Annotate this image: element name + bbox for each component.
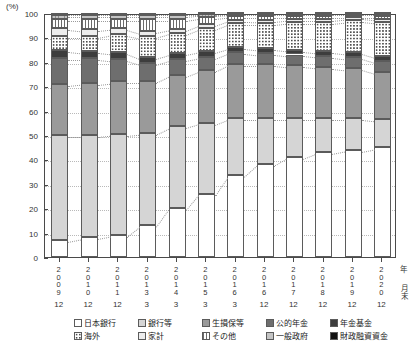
bar-2011-12[interactable] (110, 15, 127, 257)
bar-segment-fil (169, 13, 186, 15)
gridline (45, 161, 395, 162)
bar-2015-3[interactable] (198, 15, 215, 257)
bar-segment-gov (139, 15, 156, 19)
segment-connector-line (156, 17, 168, 18)
bar-segment-pf (110, 52, 127, 59)
bar-segment-fil (139, 13, 156, 15)
legend-item-bank[interactable]: 銀行等 (138, 316, 202, 329)
legend-item-oth[interactable]: その他 (202, 329, 266, 342)
segment-connector-line (156, 210, 169, 228)
segment-connector-line (361, 54, 374, 59)
segment-connector-line (186, 53, 199, 56)
bar-segment-hh (374, 19, 391, 22)
x-axis-tick-mark (176, 258, 177, 262)
chart-container: (%) 日本銀行銀行等生損保等公的年金年金基金海外家計その他一般政府財政融資資金… (0, 0, 414, 345)
bar-segment-bank (169, 126, 186, 208)
segment-connector-line (244, 120, 256, 121)
legend-item-pub[interactable]: 公的年金 (266, 316, 330, 329)
legend-item-ovs[interactable]: 海外 (74, 329, 138, 342)
x-axis-month-label: 3 (225, 300, 244, 309)
x-axis-year-label: 2011 (109, 266, 126, 296)
bar-segment-pf (315, 51, 332, 56)
gridline (45, 235, 395, 236)
plot-area (44, 14, 396, 258)
segment-connector-line (156, 21, 168, 22)
bar-2018-12[interactable] (315, 15, 332, 257)
bar-segment-boj (110, 235, 127, 257)
bar-2014-3[interactable] (169, 15, 186, 257)
segment-connector-line (98, 83, 110, 85)
bar-2016-3[interactable] (227, 15, 244, 257)
legend-swatch-oth (202, 332, 210, 340)
x-axis-month-label: 12 (372, 300, 391, 309)
x-axis-year-label: 2009 (50, 266, 67, 296)
bar-2010-12[interactable] (81, 15, 98, 257)
x-axis-year-label: 2010 (80, 266, 97, 296)
bar-segment-hh (345, 17, 362, 20)
y-axis-tick-label: 100 (14, 10, 38, 19)
bar-segment-bank (110, 134, 127, 235)
bar-2016-12[interactable] (257, 15, 274, 257)
segment-connector-line (68, 239, 81, 242)
segment-connector-line (303, 67, 315, 69)
segment-connector-line (127, 83, 139, 84)
bar-segment-hh (198, 24, 215, 28)
y-axis-tick-label: 10 (14, 230, 38, 239)
y-axis-tick-mark (44, 258, 48, 259)
bar-segment-ovs (227, 23, 244, 47)
x-axis-month-label: 3 (196, 300, 215, 309)
bar-2020-12[interactable] (374, 15, 391, 257)
bar-segment-bank (51, 135, 68, 240)
bar-segment-pub (110, 59, 127, 81)
segment-connector-line (273, 50, 285, 52)
bar-segment-oth (198, 17, 215, 24)
bar-segment-hh (51, 28, 68, 37)
bar-2017-12[interactable] (286, 15, 303, 257)
segment-connector-line (98, 30, 110, 32)
segment-connector-line (68, 52, 80, 54)
legend-swatch-pub (266, 319, 274, 327)
legend-label-ovs: 海外 (84, 330, 100, 341)
legend-item-fil[interactable]: 財政融資資金 (330, 329, 394, 342)
bar-segment-ovs (81, 36, 98, 51)
x-axis-tick-mark (117, 258, 118, 262)
bar-segment-bank (286, 118, 303, 157)
segment-connector-line (361, 22, 373, 24)
segment-connector-line (98, 237, 111, 240)
legend-item-gov[interactable]: 一般政府 (266, 329, 330, 342)
bar-segment-pub (315, 56, 332, 67)
legend-item-boj[interactable]: 日本銀行 (74, 316, 138, 329)
x-axis-month-label: 3 (167, 300, 186, 309)
segment-connector-line (97, 53, 109, 55)
legend-swatch-hh (138, 332, 146, 340)
x-axis-tick-mark (59, 258, 60, 262)
legend-label-oth: その他 (212, 330, 236, 341)
bar-2009-12[interactable] (51, 15, 68, 257)
bar-segment-oth (315, 16, 332, 19)
segment-connector-line (361, 120, 373, 122)
bar-segment-bank (81, 135, 98, 237)
legend-item-ins[interactable]: 生損保等 (202, 316, 266, 329)
bar-2019-12[interactable] (345, 15, 362, 257)
bar-segment-ovs (315, 22, 332, 51)
segment-connector-line (274, 159, 287, 167)
bar-segment-boj (257, 164, 274, 257)
x-axis-tick-mark (323, 258, 324, 262)
legend-item-hh[interactable]: 家計 (138, 329, 202, 342)
segment-connector-line (126, 54, 139, 60)
legend-label-pf: 年金基金 (340, 317, 372, 328)
legend-item-pf[interactable]: 年金基金 (330, 316, 394, 329)
bar-segment-pub (51, 58, 68, 84)
segment-connector-line (127, 227, 140, 238)
bar-2013-3[interactable] (139, 15, 156, 257)
y-axis-tick-label: 40 (14, 156, 38, 165)
x-axis-month-label: 12 (313, 300, 332, 309)
segment-connector-line (274, 21, 286, 23)
segment-connector-line (186, 72, 199, 78)
y-axis-tick-label: 0 (14, 254, 38, 263)
bar-segment-boj (169, 208, 186, 257)
bar-segment-boj (286, 157, 303, 257)
legend-label-gov: 一般政府 (276, 330, 308, 341)
x-axis-month-label: 12 (284, 300, 303, 309)
bar-segment-ovs (286, 22, 303, 50)
